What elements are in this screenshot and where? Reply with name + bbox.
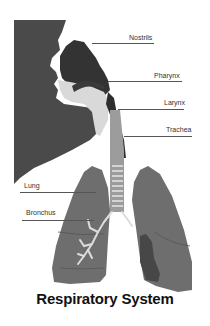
leader-larynx — [118, 109, 184, 110]
diagram-title: Respiratory System — [0, 290, 210, 307]
leader-bronchus — [22, 220, 94, 221]
leader-lung — [20, 192, 96, 193]
label-nostrils: Nostrils — [129, 34, 152, 41]
respiratory-system-diagram: Nostrils Pharynx Larynx Trachea Lung Bro… — [0, 0, 210, 326]
label-lung: Lung — [24, 182, 40, 189]
label-trachea: Trachea — [166, 126, 191, 133]
label-pharynx: Pharynx — [154, 72, 180, 79]
label-bronchus: Bronchus — [26, 209, 56, 216]
leader-pharynx — [108, 81, 182, 82]
right-lung — [132, 166, 192, 292]
leader-trachea — [124, 136, 192, 137]
leader-nostrils — [92, 43, 154, 44]
label-larynx: Larynx — [164, 99, 185, 106]
anatomy-illustration — [0, 0, 210, 326]
